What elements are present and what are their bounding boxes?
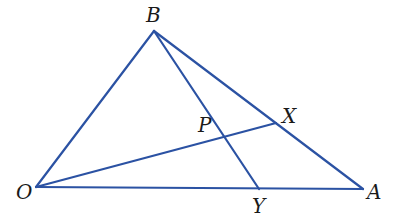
point-labels: B O A X Y P <box>16 3 381 218</box>
triangle-diagram: B O A X Y P <box>0 0 406 221</box>
label-point-b: B <box>145 3 161 27</box>
label-point-p: P <box>197 113 212 137</box>
segments <box>36 31 363 189</box>
segment-by <box>154 31 259 189</box>
segment-oa <box>36 187 363 189</box>
label-point-x: X <box>280 104 297 128</box>
label-point-o: O <box>16 180 32 204</box>
label-point-y: Y <box>252 194 267 218</box>
segment-ob <box>36 31 154 187</box>
segment-ox <box>36 123 276 187</box>
segment-ba <box>154 31 363 189</box>
label-point-a: A <box>365 180 381 204</box>
